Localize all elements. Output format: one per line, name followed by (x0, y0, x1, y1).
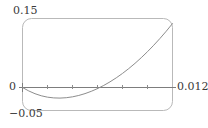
origin-label: 0 (9, 81, 16, 92)
plot-figure: 0.15 −0.05 0 0.012 (0, 0, 208, 128)
y-max-label: 0.15 (13, 5, 38, 16)
x-max-label: 0.012 (177, 81, 208, 92)
y-min-label: −0.05 (9, 108, 43, 119)
